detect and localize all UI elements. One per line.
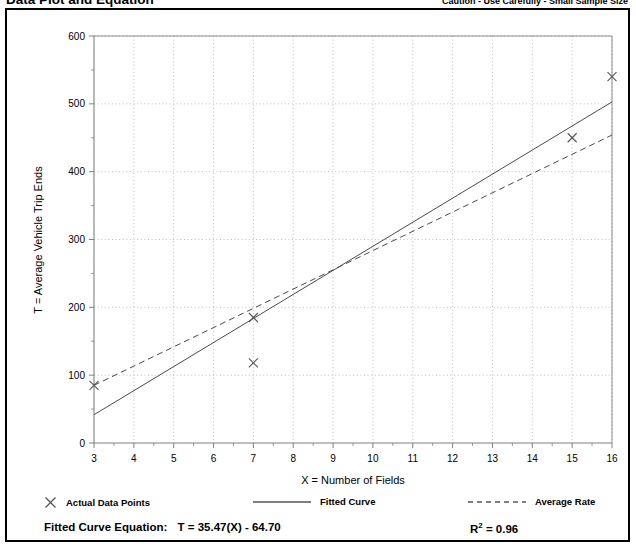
equation-value: T = 35.47(X) - 64.70 xyxy=(178,521,281,533)
r-squared-number: = 0.96 xyxy=(486,523,518,535)
chart-legend: Actual Data Points Fitted Curve Average … xyxy=(0,494,636,516)
equation-label: Fitted Curve Equation: xyxy=(44,521,167,533)
dashed-line-icon xyxy=(468,498,526,506)
legend-item-fitted-curve: Fitted Curve xyxy=(253,496,375,507)
legend-label-average-rate: Average Rate xyxy=(535,496,595,507)
page-title: Data Plot and Equation xyxy=(6,0,154,8)
x-marker-icon xyxy=(44,496,57,509)
legend-label-fitted-curve: Fitted Curve xyxy=(320,496,375,507)
caution-note: Caution - Use Carefully - Small Sample S… xyxy=(442,0,628,8)
fitted-curve-equation: Fitted Curve Equation: T = 35.47(X) - 64… xyxy=(44,521,281,533)
legend-label-actual-data-points: Actual Data Points xyxy=(66,497,150,508)
solid-line-icon xyxy=(253,498,311,506)
chart-frame xyxy=(5,8,630,542)
r-squared-value: R2 = 0.96 xyxy=(470,521,518,535)
legend-item-actual-data-points: Actual Data Points xyxy=(44,496,150,509)
legend-item-average-rate: Average Rate xyxy=(468,496,595,507)
equation-row: Fitted Curve Equation: T = 35.47(X) - 64… xyxy=(0,521,636,543)
r-squared-exponent: 2 xyxy=(478,521,482,530)
